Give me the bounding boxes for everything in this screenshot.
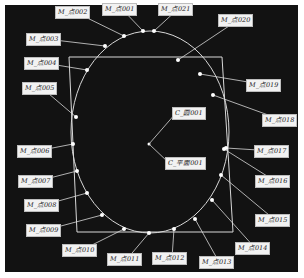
point-marker[interactable] (219, 173, 223, 177)
point-label[interactable]: M_点002 (55, 6, 90, 19)
point-label[interactable]: M_点006 (17, 145, 52, 158)
point-label[interactable]: M_点014 (235, 242, 270, 255)
point-label[interactable]: M_点016 (255, 175, 290, 188)
point-label[interactable]: M_点013 (199, 256, 234, 269)
point-marker[interactable] (176, 58, 180, 62)
point-label[interactable]: M_点004 (24, 57, 59, 70)
point-marker[interactable] (85, 191, 89, 195)
point-marker[interactable] (122, 227, 126, 231)
point-marker[interactable] (103, 44, 107, 48)
point-label[interactable]: M_点017 (254, 145, 289, 158)
point-label[interactable]: M_点020 (218, 14, 253, 27)
point-marker[interactable] (74, 115, 78, 119)
point-label[interactable]: M_点019 (246, 79, 281, 92)
point-marker[interactable] (198, 72, 202, 76)
point-label[interactable]: M_点001 (102, 3, 137, 16)
circle-label[interactable]: C_圆001 (172, 107, 206, 120)
point-marker[interactable] (122, 34, 126, 38)
point-label[interactable]: M_点009 (26, 224, 61, 237)
point-label[interactable]: M_点018 (262, 114, 297, 127)
point-label[interactable]: M_点011 (107, 253, 142, 266)
point-label[interactable]: M_点005 (22, 82, 57, 95)
point-marker[interactable] (147, 231, 151, 235)
point-label[interactable]: M_点015 (255, 214, 290, 227)
point-marker[interactable] (141, 29, 145, 33)
point-label[interactable]: M_点007 (18, 175, 53, 188)
point-marker[interactable] (75, 169, 79, 173)
point-label[interactable]: M_点021 (158, 3, 193, 16)
circle-curve[interactable] (71, 31, 229, 233)
point-marker[interactable] (100, 213, 104, 217)
point-label[interactable]: M_点003 (26, 33, 61, 46)
point-marker[interactable] (85, 68, 89, 72)
point-marker[interactable] (172, 227, 176, 231)
point-marker[interactable] (224, 146, 228, 150)
point-marker[interactable] (211, 93, 215, 97)
point-label[interactable]: M_点010 (62, 244, 97, 257)
point-label[interactable]: M_点012 (152, 252, 187, 265)
point-marker[interactable] (193, 217, 197, 221)
plane-label[interactable]: C_平面001 (165, 157, 206, 170)
point-label[interactable]: M_点008 (24, 199, 59, 212)
leader-line[interactable] (212, 200, 255, 248)
plane-rectangle[interactable] (69, 57, 233, 232)
point-marker[interactable] (210, 198, 214, 202)
point-marker[interactable] (152, 29, 156, 33)
point-marker[interactable] (71, 142, 75, 146)
